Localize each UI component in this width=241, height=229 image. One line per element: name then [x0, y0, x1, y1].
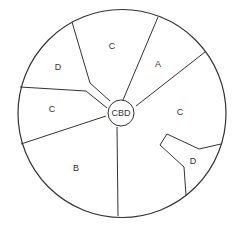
cbd-label: CBD	[111, 108, 131, 118]
urban-zones-diagram: CBD C A D C C B D	[0, 0, 241, 229]
region-label: C	[177, 107, 184, 117]
boundary-line-lower-left	[21, 116, 106, 144]
region-label: D	[190, 156, 197, 166]
boundary-line-top	[123, 17, 158, 100]
boundary-line-top-left	[72, 22, 110, 101]
region-label: A	[155, 59, 161, 69]
boundary-line-bottom	[117, 127, 118, 216]
region-label: C	[49, 104, 56, 114]
region-label: D	[55, 62, 62, 72]
boundary-line-left	[20, 87, 107, 108]
boundary-line-top-right	[136, 52, 205, 106]
region-label: B	[73, 163, 79, 173]
region-label: C	[109, 41, 116, 51]
